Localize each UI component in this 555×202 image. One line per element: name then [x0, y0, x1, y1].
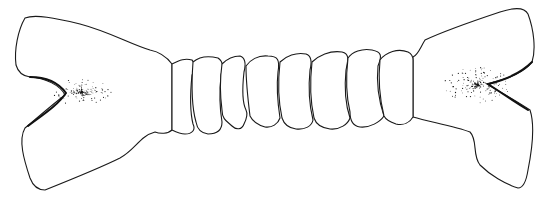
left-end-piece: [15, 16, 172, 190]
segment-1: [172, 59, 195, 134]
segment-2: [192, 57, 223, 134]
bone-illustration: [0, 0, 555, 202]
segment-3: [221, 56, 247, 129]
segment-4: [246, 56, 280, 127]
segment-6: [311, 52, 350, 130]
segment-7: [347, 49, 384, 127]
right-end-piece: [413, 9, 534, 188]
segment-8: [379, 50, 413, 124]
segment-chain: [172, 49, 413, 134]
segment-5: [279, 53, 313, 129]
